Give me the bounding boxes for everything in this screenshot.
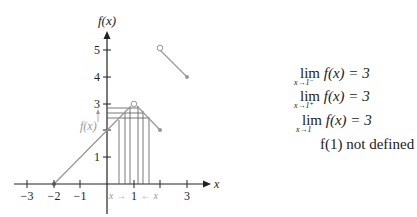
closed-point	[185, 75, 189, 79]
lim-operator: limx→1⁺	[300, 89, 320, 104]
y-axis-title: f(x)	[98, 13, 116, 28]
closed-point	[158, 128, 162, 132]
right-limit-equation: limx→1⁺ f(x) = 3	[300, 89, 370, 104]
open-point	[131, 101, 137, 107]
limit-graph: −3 −2 −1 3 1 4 5 3 f(x) x f(x) x → 1 ← x	[0, 0, 240, 217]
lim-subscript: x→1	[296, 126, 312, 134]
x-tick-label: −1	[74, 189, 87, 203]
y-axis-arrow-icon	[104, 31, 111, 39]
y-tick-label: 3	[94, 97, 100, 111]
lim-subscript: x→1⁺	[294, 102, 314, 110]
y-tick-label: 4	[94, 70, 100, 84]
closed-point	[52, 182, 56, 186]
x-tick-label: −2	[48, 189, 61, 203]
y-tick-label: 5	[94, 43, 100, 57]
inline-fx-label: f(x)	[80, 119, 97, 133]
x-tick-label: −3	[21, 189, 34, 203]
lim-operator: limx→1	[302, 113, 322, 128]
approach-left-label: x →	[108, 190, 126, 201]
x-axis-title: x	[213, 177, 220, 191]
equation-expression: f(x) = 3	[326, 112, 372, 128]
x-axis-arrow-icon	[203, 181, 211, 188]
function-value-statement: f(1) not defined	[320, 137, 414, 152]
two-sided-limit-equation: limx→1 f(x) = 3	[302, 113, 372, 128]
equation-expression: f(x) = 3	[324, 88, 370, 104]
approach-guides	[107, 106, 149, 184]
equation-expression: f(1) not defined	[320, 136, 414, 152]
lim-operator: limx→1⁻	[300, 66, 320, 81]
approach-right-label: ← x	[141, 190, 159, 201]
function-curve	[54, 50, 187, 184]
equation-expression: f(x) = 3	[324, 65, 370, 81]
y-tick-label: 1	[94, 150, 100, 164]
approach-center-label: 1	[131, 189, 137, 203]
x-tick-label: 3	[184, 189, 190, 203]
lim-subscript: x→1⁻	[294, 79, 314, 87]
open-point	[157, 45, 163, 51]
left-limit-equation: limx→1⁻ f(x) = 3	[300, 66, 370, 81]
